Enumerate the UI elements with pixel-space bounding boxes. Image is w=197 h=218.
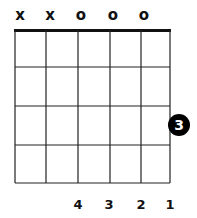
muted-string-marker: x [15, 6, 25, 24]
nut [14, 29, 171, 32]
open-string-marker: o [108, 6, 118, 24]
finger-label: 2 [136, 197, 145, 212]
frets [15, 67, 170, 183]
string-markers: x x o o o [15, 6, 149, 24]
finger-dot: 3 [168, 114, 190, 136]
open-string-marker: o [139, 6, 149, 24]
muted-string-marker: x [45, 6, 55, 24]
finger-label: 3 [104, 197, 113, 212]
finger-labels: 4 3 2 1 [73, 197, 174, 212]
chord-diagram: x x o o o 3 4 3 2 1 [0, 0, 197, 218]
finger-label: 4 [73, 197, 82, 212]
finger-label: 1 [165, 197, 174, 212]
finger-dot-label: 3 [174, 117, 184, 133]
open-string-marker: o [76, 6, 86, 24]
